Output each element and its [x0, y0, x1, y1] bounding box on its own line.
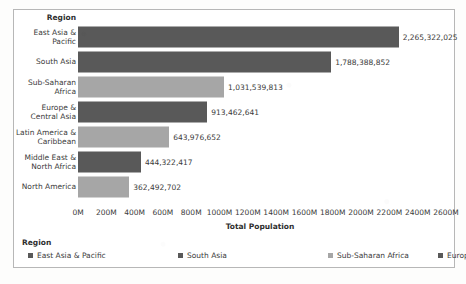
legend-item-label: South Asia: [187, 251, 227, 260]
bar[interactable]: [78, 176, 129, 197]
bar-row: North America362,492,702: [14, 174, 454, 199]
x-axis-tick: 2400M: [405, 208, 431, 217]
bar-value-label: 2,265,322,025: [403, 32, 458, 41]
x-axis-tick: 1400M: [263, 208, 289, 217]
bar[interactable]: [78, 76, 224, 97]
bar[interactable]: [78, 151, 141, 172]
category-label: Europe &Central Asia: [14, 102, 76, 120]
legend-item[interactable]: Europe & Central Asia: [438, 250, 466, 261]
legend-item-label: Sub-Saharan Africa: [337, 251, 409, 260]
bar[interactable]: [78, 126, 169, 147]
bar-value-label: 1,031,539,813: [228, 82, 283, 91]
category-label: Sub-SaharanAfrica: [14, 77, 76, 95]
legend-swatch-icon: [28, 253, 33, 258]
bar-row: Europe &Central Asia913,462,641: [14, 99, 454, 124]
bar[interactable]: [78, 101, 207, 122]
x-axis-tick: 1200M: [235, 208, 261, 217]
bar-value-label: 913,462,641: [211, 107, 259, 116]
x-axis-tick: 0M: [72, 208, 83, 217]
legend-swatch-icon: [438, 253, 443, 258]
legend-swatch-icon: [178, 253, 183, 258]
x-axis-tick: 2000M: [348, 208, 374, 217]
legend-item-label: East Asia & Pacific: [37, 251, 106, 260]
bar-value-label: 362,492,702: [133, 182, 181, 191]
legend-item[interactable]: East Asia & Pacific: [28, 250, 178, 261]
plot-area: Region East Asia &Pacific2,265,322,025So…: [14, 10, 454, 206]
x-axis-tick: 1000M: [207, 208, 233, 217]
chart-container: Region East Asia &Pacific2,265,322,025So…: [13, 9, 455, 268]
bar-row: South Asia1,788,388,852: [14, 49, 454, 74]
x-axis-tick: 600M: [153, 208, 174, 217]
x-axis-tick: 400M: [124, 208, 145, 217]
bar-row: Latin America &Caribbean643,976,652: [14, 124, 454, 149]
category-label: Latin America &Caribbean: [14, 127, 76, 145]
bar[interactable]: [78, 26, 399, 47]
category-label: East Asia &Pacific: [14, 27, 76, 45]
bar-value-label: 444,322,417: [145, 157, 193, 166]
x-axis-tick: 2200M: [377, 208, 403, 217]
legend-item[interactable]: South Asia: [178, 250, 328, 261]
x-axis-tick: 1800M: [320, 208, 346, 217]
x-axis-tick: 1600M: [292, 208, 318, 217]
legend-item[interactable]: Sub-Saharan Africa: [328, 250, 438, 261]
bar-row: Sub-SaharanAfrica1,031,539,813: [14, 74, 454, 99]
category-label: South Asia: [14, 57, 76, 66]
x-axis-tick: 200M: [96, 208, 117, 217]
legend: Region East Asia & PacificSouth AsiaSub-…: [22, 238, 448, 263]
y-axis-header: Region: [14, 13, 76, 22]
bar-row: East Asia &Pacific2,265,322,025: [14, 24, 454, 49]
category-label: Middle East &North Africa: [14, 152, 76, 170]
x-axis-title: Total Population: [78, 222, 442, 231]
x-axis-tick: 2600M: [433, 208, 459, 217]
category-label: North America: [14, 182, 76, 191]
bar-value-label: 1,788,388,852: [335, 57, 390, 66]
legend-title: Region: [22, 238, 448, 247]
legend-items: East Asia & PacificSouth AsiaSub-Saharan…: [22, 250, 448, 261]
bar[interactable]: [78, 51, 331, 72]
bar-value-label: 643,976,652: [173, 132, 221, 141]
legend-item-label: Europe & Central Asia: [447, 251, 466, 260]
legend-swatch-icon: [328, 253, 333, 258]
x-axis-tick: 800M: [181, 208, 202, 217]
bar-row: Middle East &North Africa444,322,417: [14, 149, 454, 174]
